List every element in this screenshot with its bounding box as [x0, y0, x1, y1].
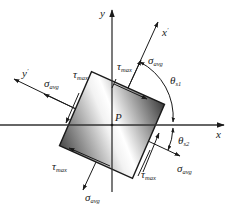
sigma-avg-arrow-bottom — [83, 162, 96, 190]
theta-s2-arc — [168, 128, 173, 150]
sigma-avg-arrow-top — [128, 60, 141, 88]
theta-s2-label: θs2 — [178, 134, 190, 147]
stress-element-diagram: P x y x′ y′ σavg σavg σavg σavg τmax τma… — [0, 0, 234, 218]
sigma-avg-arrow-left — [44, 94, 76, 109]
tau-max-label-top: τmax — [117, 60, 132, 73]
tau-max-label-right: τmax — [141, 168, 156, 181]
sigma-avg-label-left: σavg — [44, 77, 60, 90]
sigma-avg-label-bottom: σavg — [85, 191, 101, 204]
x-prime-label: x′ — [161, 26, 169, 38]
point-p-label: P — [114, 111, 122, 123]
x-axis-label: x — [215, 128, 221, 140]
y-axis-label: y — [99, 7, 105, 19]
point-p-marker — [111, 124, 114, 127]
sigma-avg-label-top: σavg — [148, 54, 164, 67]
tau-max-label-bottom: τmax — [52, 160, 67, 173]
y-prime-label: y′ — [21, 67, 29, 79]
theta-s1-label: θs1 — [170, 74, 181, 87]
tau-max-label-left: τmax — [73, 68, 88, 81]
sigma-avg-label-right: σavg — [177, 162, 193, 175]
